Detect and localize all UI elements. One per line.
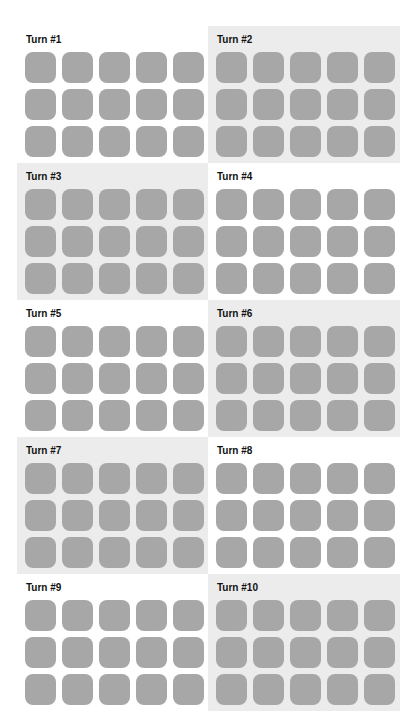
tile [216, 189, 247, 220]
turn-panel-4: Turn #4 [208, 163, 400, 300]
turn-title: Turn #9 [26, 582, 200, 596]
tile [290, 126, 321, 157]
tile [364, 500, 395, 531]
tile [62, 363, 93, 394]
tile [136, 126, 167, 157]
tile [290, 363, 321, 394]
tile [25, 463, 56, 494]
turn-title: Turn #5 [26, 308, 200, 322]
tile [364, 326, 395, 357]
tile [173, 674, 204, 705]
tile [136, 537, 167, 568]
tile [173, 189, 204, 220]
tile [99, 400, 130, 431]
turn-panel-9: Turn #9 [17, 574, 208, 711]
turn-panel-10: Turn #10 [208, 574, 400, 711]
tile [99, 600, 130, 631]
tile [253, 89, 284, 120]
tile [253, 674, 284, 705]
tile [290, 537, 321, 568]
tile [253, 463, 284, 494]
tile [62, 189, 93, 220]
tile [253, 500, 284, 531]
tile [136, 52, 167, 83]
tile [364, 189, 395, 220]
tile [216, 363, 247, 394]
tile [173, 600, 204, 631]
tile-grid [216, 326, 392, 431]
tile [136, 600, 167, 631]
tile [25, 126, 56, 157]
tile [136, 637, 167, 668]
tile [62, 500, 93, 531]
tile [173, 263, 204, 294]
tile [327, 52, 358, 83]
tile-grid [25, 52, 200, 157]
tile-grid [25, 463, 200, 568]
tile [290, 52, 321, 83]
turn-title: Turn #1 [26, 34, 200, 48]
tile [136, 500, 167, 531]
tile [136, 463, 167, 494]
turn-panel-5: Turn #5 [17, 300, 208, 437]
tile [25, 674, 56, 705]
tile [173, 637, 204, 668]
tile [99, 189, 130, 220]
tile [327, 363, 358, 394]
tile [25, 537, 56, 568]
tile [216, 537, 247, 568]
tile [99, 500, 130, 531]
tile [327, 263, 358, 294]
tile-grid [25, 189, 200, 294]
turn-title: Turn #3 [26, 171, 200, 185]
tile [327, 126, 358, 157]
turn-panel-7: Turn #7 [17, 437, 208, 574]
tile [216, 637, 247, 668]
tile-grid [25, 600, 200, 705]
tile [290, 326, 321, 357]
tile [99, 637, 130, 668]
tile [364, 363, 395, 394]
tile [327, 189, 358, 220]
tile [327, 674, 358, 705]
turn-title: Turn #7 [26, 445, 200, 459]
tile [99, 363, 130, 394]
tile [253, 52, 284, 83]
tile [364, 89, 395, 120]
tile [62, 600, 93, 631]
tile [25, 637, 56, 668]
tile [25, 500, 56, 531]
tile [62, 89, 93, 120]
tile [290, 500, 321, 531]
tile [216, 89, 247, 120]
tile [290, 463, 321, 494]
tile [25, 326, 56, 357]
tile [216, 263, 247, 294]
tile [216, 500, 247, 531]
tile [216, 226, 247, 257]
tile [99, 52, 130, 83]
tile [62, 463, 93, 494]
tile [62, 226, 93, 257]
tile [253, 226, 284, 257]
tile [253, 637, 284, 668]
turn-panel-1: Turn #1 [17, 26, 208, 163]
tile [216, 52, 247, 83]
tile [62, 126, 93, 157]
tile [173, 463, 204, 494]
tile-grid [216, 600, 392, 705]
tile [327, 400, 358, 431]
tile [62, 52, 93, 83]
tile [62, 637, 93, 668]
turn-panel-2: Turn #2 [208, 26, 400, 163]
tile [290, 600, 321, 631]
tile [25, 400, 56, 431]
tile [327, 500, 358, 531]
tile [216, 600, 247, 631]
tile [62, 537, 93, 568]
tile [136, 226, 167, 257]
tile [99, 537, 130, 568]
tile [99, 463, 130, 494]
tile [99, 226, 130, 257]
turn-title: Turn #10 [217, 582, 392, 596]
